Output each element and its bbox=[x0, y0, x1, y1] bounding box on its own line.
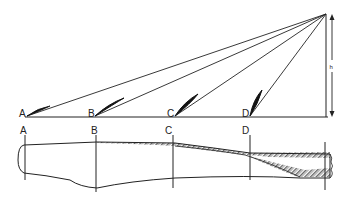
airfoil-a bbox=[27, 106, 50, 116]
top-label-a: A bbox=[19, 108, 26, 119]
top-label-d: D bbox=[242, 108, 249, 119]
pitch-arrow: h bbox=[330, 14, 335, 117]
propeller-diagram: h A B C D A B C D bbox=[0, 0, 350, 200]
airfoil-b bbox=[95, 98, 124, 116]
chord-line-a bbox=[27, 14, 326, 116]
bottom-label-b: B bbox=[91, 125, 98, 136]
top-label-b: B bbox=[88, 108, 95, 119]
bottom-label-c: C bbox=[165, 125, 172, 136]
bottom-label-d: D bbox=[242, 125, 249, 136]
blade-planform bbox=[18, 142, 333, 188]
pitch-triangle bbox=[25, 14, 328, 117]
twist-curve bbox=[175, 146, 300, 177]
arrow-up-icon bbox=[330, 14, 335, 20]
top-label-c: C bbox=[167, 108, 174, 119]
chord-line-d bbox=[250, 14, 326, 116]
chord-line-b bbox=[95, 14, 326, 116]
chord-line-c bbox=[175, 14, 326, 116]
bottom-label-a: A bbox=[20, 125, 27, 136]
arrow-down-icon bbox=[330, 111, 335, 117]
airfoil-c bbox=[175, 94, 198, 116]
pitch-label: h bbox=[330, 64, 333, 70]
